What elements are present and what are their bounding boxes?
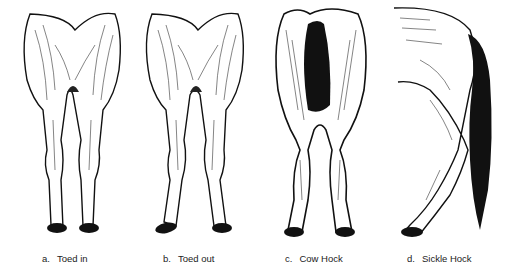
figure-sickle-hock bbox=[390, 0, 510, 245]
figure-toed-in bbox=[15, 0, 125, 245]
horse-hind-sickle-hock-icon bbox=[390, 0, 510, 245]
caption-label: Cow Hock bbox=[299, 253, 342, 264]
figure-cow-hock bbox=[270, 0, 375, 245]
horse-legs-toed-in-icon bbox=[15, 0, 125, 245]
caption-letter: a. bbox=[42, 253, 50, 264]
figure-toed-out bbox=[140, 0, 250, 245]
caption-letter: d. bbox=[407, 253, 415, 264]
caption-cow-hock: c.Cow Hock bbox=[285, 253, 343, 264]
caption-label: Toed in bbox=[57, 253, 88, 264]
horse-hind-cow-hock-icon bbox=[270, 0, 375, 245]
caption-sickle-hock: d.Sickle Hock bbox=[407, 253, 472, 264]
caption-label: Sickle Hock bbox=[422, 253, 472, 264]
caption-letter: c. bbox=[285, 253, 292, 264]
caption-label: Toed out bbox=[178, 253, 214, 264]
caption-toed-in: a.Toed in bbox=[42, 253, 88, 264]
horse-legs-toed-out-icon bbox=[140, 0, 250, 245]
caption-letter: b. bbox=[163, 253, 171, 264]
caption-toed-out: b.Toed out bbox=[163, 253, 214, 264]
